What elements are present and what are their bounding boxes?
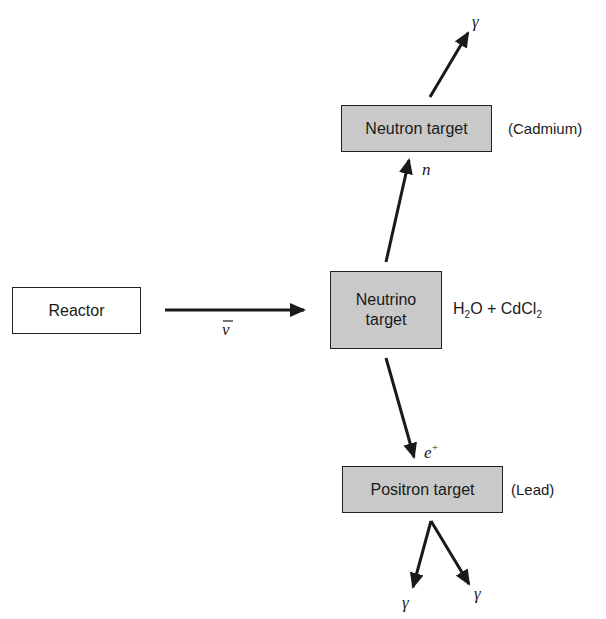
positron-target-material: (Lead) [511, 481, 554, 498]
neutron-arrow [386, 160, 409, 262]
neutrino-target-line1: Neutrino [356, 290, 416, 310]
gamma-left-symbol: γ [402, 593, 409, 613]
gamma-top-arrow [430, 33, 468, 97]
neutrino-target-box: Neutrino target [330, 271, 442, 349]
neutrino-target-material: H2O + CdCl2 [453, 300, 542, 320]
positron-target-label: Positron target [370, 480, 474, 500]
reactor-box: Reactor [12, 287, 141, 334]
gamma-right-symbol: γ [474, 584, 481, 604]
antineutrino-symbol: ν [222, 320, 230, 340]
gamma-top-symbol: γ [472, 12, 479, 32]
positron-symbol: e+ [424, 442, 438, 463]
diagram-canvas: Reactor Neutrino target H2O + CdCl2 Neut… [0, 0, 606, 619]
neutron-symbol: n [422, 160, 431, 180]
reactor-label: Reactor [48, 301, 104, 321]
positron-target-box: Positron target [342, 466, 503, 513]
neutron-target-label: Neutron target [365, 119, 467, 139]
positron-arrow [386, 358, 414, 457]
neutron-target-box: Neutron target [341, 105, 492, 152]
neutron-target-material: (Cadmium) [508, 120, 582, 137]
gamma-left-arrow [413, 521, 431, 587]
neutrino-target-line2: target [366, 310, 407, 330]
gamma-right-arrow [431, 521, 469, 584]
